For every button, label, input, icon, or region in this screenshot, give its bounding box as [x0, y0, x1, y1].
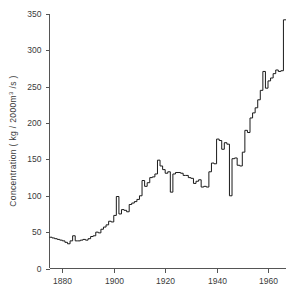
y-tick-label: 150: [27, 154, 41, 164]
y-axis-ticks: 050100150200250300350: [27, 9, 49, 274]
y-tick-label: 50: [32, 227, 42, 237]
y-tick-label: 350: [27, 9, 41, 19]
svg-text:Concentration ( kg / 2000m3 /s: Concentration ( kg / 2000m3 /s ): [8, 75, 18, 206]
x-tick-label: 1940: [208, 276, 227, 286]
chart-figure: 050100150200250300350 188019001920194019…: [0, 0, 293, 296]
data-series-line: [50, 20, 287, 244]
x-axis-ticks: 18801900192019401960: [53, 269, 278, 286]
x-tick-label: 1920: [156, 276, 175, 286]
concentration-time-series-chart: 050100150200250300350 188019001920194019…: [0, 0, 293, 296]
y-axis-title: Concentration ( kg / 2000m3 /s ): [8, 75, 18, 206]
y-tick-label: 300: [27, 45, 41, 55]
y-tick-label: 250: [27, 82, 41, 92]
y-tick-label: 200: [27, 118, 41, 128]
x-tick-label: 1880: [53, 276, 72, 286]
y-tick-label: 0: [37, 264, 42, 274]
x-tick-label: 1960: [259, 276, 278, 286]
y-tick-label: 100: [27, 191, 41, 201]
x-tick-label: 1900: [105, 276, 124, 286]
